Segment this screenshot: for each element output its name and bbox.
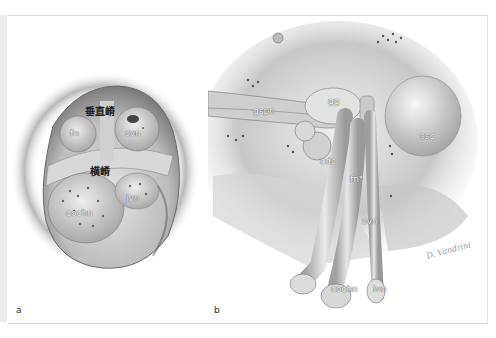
- label-gg: gg: [328, 96, 339, 106]
- label-cochn-a: cochn: [66, 208, 93, 218]
- label-svn-b: svn: [362, 216, 378, 226]
- figure-frame: 垂直嵴 横嵴 fn svn cochn ivn a: [8, 15, 488, 324]
- label-cochn-b: cochn: [331, 284, 358, 294]
- label-ivn-a: ivn: [126, 193, 140, 203]
- label-fn-a: fn: [70, 128, 79, 138]
- left-margin-strip: [0, 15, 7, 322]
- label-cdc: cdc: [320, 156, 336, 166]
- label-vertical-crest: 垂直嵴: [85, 103, 115, 118]
- panel-a: 垂直嵴 横嵴 fn svn cochn ivn a: [8, 16, 208, 323]
- label-ssc: ssc: [420, 131, 434, 141]
- panel-b: gspn gg ssc cdc fn* svn cochn ivn D. Van…: [208, 16, 487, 323]
- label-ivn-b: ivn: [373, 284, 387, 294]
- label-gspn: gspn: [253, 106, 275, 116]
- label-transverse-crest: 横嵴: [90, 163, 110, 178]
- panel-letter-a: a: [16, 305, 22, 315]
- panel-letter-b: b: [214, 305, 220, 315]
- label-fn-b: fn*: [350, 174, 363, 184]
- facial-nerve-vestibulocochlear-illustration: [208, 16, 487, 323]
- label-svn-a: svn: [125, 128, 141, 138]
